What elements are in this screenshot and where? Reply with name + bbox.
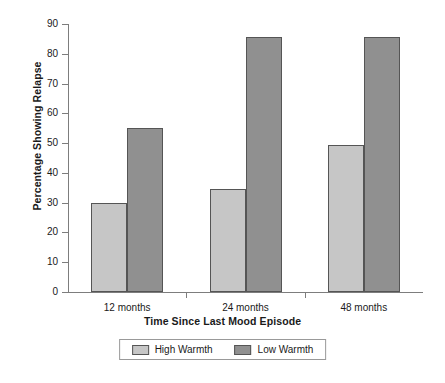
y-axis-tick-label: 30 [47,196,58,209]
y-axis-tick-label: 60 [47,106,58,119]
bar [364,37,400,292]
y-axis-tick-label: 80 [47,47,58,60]
bar [328,145,364,292]
x-axis-title: Time Since Last Mood Episode [0,315,445,327]
legend-label: High Warmth [155,344,213,355]
y-axis-tick-label: 40 [47,166,58,179]
x-axis-line [68,292,423,293]
x-axis-tick [305,292,306,298]
legend-label: Low Warmth [258,344,314,355]
bars-layer [68,24,423,292]
y-axis-tick-label: 10 [47,255,58,268]
bar [246,37,282,292]
plot-area: 0102030405060708090 [68,24,423,292]
legend: High WarmthLow Warmth [119,339,327,360]
x-axis-category-label: 12 months [77,302,177,313]
legend-entry: High Warmth [132,344,213,355]
bar [91,203,127,292]
y-axis-tick-label: 50 [47,136,58,149]
bar [127,128,163,292]
y-axis-tick-label: 90 [47,17,58,30]
legend-swatch-icon [235,345,252,355]
y-axis-tick-label: 20 [47,225,58,238]
x-axis-category-label: 24 months [196,302,296,313]
y-axis-tick: 0 [62,292,68,293]
legend-entry: Low Warmth [235,344,314,355]
x-axis-category-label: 48 months [314,302,414,313]
y-axis-title: Percentage Showing Relapse [31,21,43,251]
bar [210,189,246,292]
x-axis-tick [186,292,187,298]
bar-chart: Percentage Showing Relapse 0102030405060… [0,0,445,383]
y-axis-tick-label: 0 [52,285,58,298]
y-axis-tick-label: 70 [47,77,58,90]
legend-swatch-icon [132,345,149,355]
